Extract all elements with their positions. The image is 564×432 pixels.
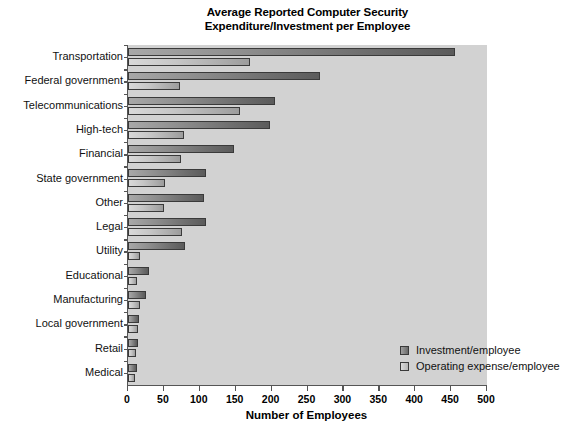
x-axis-tick — [127, 386, 128, 391]
bar-investment — [128, 364, 137, 372]
chart-legend: Investment/employee Operating expense/em… — [400, 343, 564, 375]
y-axis-label-state-government: State government — [3, 173, 123, 184]
y-axis-tick — [124, 215, 128, 216]
bar-operating-expense — [128, 349, 136, 357]
x-axis-title: Number of Employees — [127, 409, 486, 421]
bar-group — [128, 264, 487, 288]
bar-operating-expense — [128, 155, 181, 163]
bar-operating-expense — [128, 204, 164, 212]
bar-investment — [128, 339, 138, 347]
legend-label-investment: Investment/employee — [416, 344, 521, 356]
x-axis-tick-label: 250 — [298, 393, 316, 405]
x-axis-tick-label: 200 — [262, 393, 280, 405]
chart-title-line-1: Average Reported Computer Security — [120, 5, 495, 19]
bar-operating-expense — [128, 277, 137, 285]
y-axis-tick — [124, 81, 128, 82]
bar-operating-expense — [128, 58, 250, 66]
legend-swatch-investment — [400, 346, 409, 355]
bar-group — [128, 69, 487, 93]
bar-investment — [128, 48, 455, 56]
bar-investment — [128, 145, 234, 153]
bar-investment — [128, 194, 204, 202]
x-axis-tick-label: 150 — [226, 393, 244, 405]
y-axis-labels: TransportationFederal governmentTelecomm… — [0, 45, 123, 385]
y-axis-tick — [124, 106, 128, 107]
bar-operating-expense — [128, 179, 165, 187]
y-axis-label-high-tech: High-tech — [3, 124, 123, 135]
bar-investment — [128, 242, 185, 250]
bar-group — [128, 142, 487, 166]
bar-investment — [128, 72, 320, 80]
bar-group — [128, 312, 487, 336]
x-axis-tick-label: 50 — [157, 393, 169, 405]
bar-operating-expense — [128, 252, 140, 260]
x-axis-tick-label: 350 — [370, 393, 388, 405]
y-axis-tick — [124, 57, 128, 58]
y-axis-tick — [124, 94, 128, 95]
legend-label-operating-expense: Operating expense/employee — [416, 360, 560, 372]
x-axis-tick-label: 100 — [190, 393, 208, 405]
y-axis-tick — [124, 361, 128, 362]
bar-group — [128, 166, 487, 190]
bar-group — [128, 215, 487, 239]
bar-group — [128, 94, 487, 118]
x-axis-tick — [378, 386, 379, 391]
y-axis-tick — [124, 45, 128, 46]
y-axis-tick — [124, 203, 128, 204]
y-axis-tick — [124, 166, 128, 167]
y-axis-tick — [124, 154, 128, 155]
x-axis-tick — [271, 386, 272, 391]
bar-investment — [128, 97, 275, 105]
x-axis-tick-label: 450 — [441, 393, 459, 405]
bar-group — [128, 45, 487, 69]
bar-operating-expense — [128, 374, 135, 382]
bar-group — [128, 191, 487, 215]
bar-investment — [128, 121, 270, 129]
chart-title: Average Reported Computer Security Expen… — [120, 5, 495, 33]
bar-operating-expense — [128, 301, 140, 309]
y-axis-tick — [124, 276, 128, 277]
bar-operating-expense — [128, 131, 184, 139]
y-axis-label-transportation: Transportation — [3, 51, 123, 62]
bar-group — [128, 288, 487, 312]
bar-group — [128, 118, 487, 142]
y-axis-tick — [124, 373, 128, 374]
y-axis-label-other: Other — [3, 197, 123, 208]
y-axis-tick — [124, 300, 128, 301]
y-axis-label-educational: Educational — [3, 270, 123, 281]
y-axis-label-legal: Legal — [3, 221, 123, 232]
y-axis-tick — [124, 227, 128, 228]
y-axis-tick — [124, 336, 128, 337]
y-axis-tick — [124, 130, 128, 131]
x-axis-tick-label: 300 — [334, 393, 352, 405]
y-axis-tick — [124, 69, 128, 70]
y-axis-tick — [124, 179, 128, 180]
legend-entry-operating-expense: Operating expense/employee — [400, 359, 564, 373]
x-axis-tick — [199, 386, 200, 391]
y-axis-label-manufacturing: Manufacturing — [3, 294, 123, 305]
x-axis-tick-label: 0 — [124, 393, 130, 405]
x-axis-tick-label: 400 — [405, 393, 423, 405]
chart-title-line-2: Expenditure/Investment per Employee — [120, 19, 495, 33]
y-axis-tick — [124, 251, 128, 252]
bar-operating-expense — [128, 228, 182, 236]
y-axis-label-medical: Medical — [3, 367, 123, 378]
y-axis-tick — [124, 191, 128, 192]
bar-investment — [128, 291, 146, 299]
y-axis-label-financial: Financial — [3, 148, 123, 159]
bar-operating-expense — [128, 325, 138, 333]
y-axis-label-utility: Utility — [3, 245, 123, 256]
legend-entry-investment: Investment/employee — [400, 343, 564, 357]
bar-group — [128, 239, 487, 263]
bar-investment — [128, 169, 206, 177]
bar-investment — [128, 218, 206, 226]
x-axis-tick — [450, 386, 451, 391]
bar-investment — [128, 267, 149, 275]
y-axis-tick — [124, 324, 128, 325]
y-axis-tick — [124, 288, 128, 289]
x-axis-tick — [414, 386, 415, 391]
y-axis-label-local-government: Local government — [3, 318, 123, 329]
legend-swatch-operating-expense — [400, 362, 409, 371]
y-axis-tick — [124, 264, 128, 265]
